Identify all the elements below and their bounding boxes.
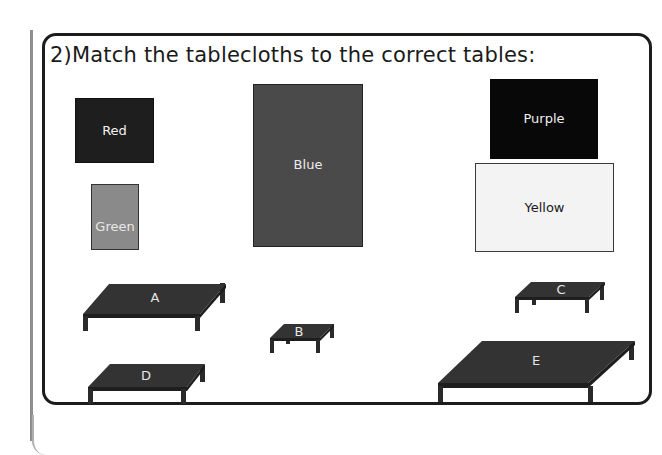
table-label-e: E	[532, 353, 540, 368]
